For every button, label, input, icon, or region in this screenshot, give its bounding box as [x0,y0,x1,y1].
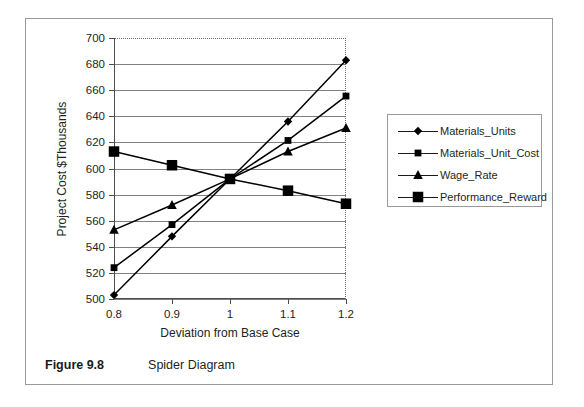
y-tick-label: 520 [86,267,105,279]
x-axis-title: Deviation from Base Case [114,326,346,340]
legend-item-wage-rate[interactable]: Wage_Rate [396,165,498,185]
y-tick-label: 500 [86,293,105,305]
y-tick-label: 580 [86,189,105,201]
legend-item-materials-units[interactable]: Materials_Units [396,121,516,141]
legend-marker [396,187,440,207]
series-plot [114,38,346,299]
legend-marker [396,165,440,185]
x-tick-mark [230,299,231,304]
data-point-marker [285,137,292,144]
legend-item-materials-unit-cost[interactable]: Materials_Unit_Cost [396,143,539,163]
y-tick-label: 600 [86,163,105,175]
x-tick-label: 0.9 [164,308,180,320]
data-point-marker [109,146,120,157]
y-tick-label: 680 [86,58,105,70]
plot-area: 500520540560580600620640660680700 0.80.9… [114,38,346,299]
figure-caption-text: Spider Diagram [148,358,235,372]
y-tick-label: 660 [86,84,105,96]
y-tick-label: 640 [86,110,105,122]
data-point-marker [169,221,176,228]
legend-label: Performance_Reward [440,191,547,203]
chart-legend: Materials_UnitsMaterials_Unit_CostWage_R… [387,114,542,207]
x-tick-label: 1.1 [280,308,296,320]
x-tick-label: 0.8 [106,308,122,320]
legend-label: Materials_Units [440,125,516,137]
data-point-marker [283,185,294,196]
data-point-marker [341,123,351,132]
legend-large-square-icon [410,189,426,205]
series-performance-reward [109,146,352,209]
data-point-marker [111,264,118,271]
data-point-marker [167,160,178,171]
legend-marker [396,121,440,141]
legend-label: Wage_Rate [440,169,498,181]
legend-square-icon [410,145,426,161]
y-tick-mark [109,299,114,300]
x-tick-mark [172,299,173,304]
legend-item-performance-reward[interactable]: Performance_Reward [396,187,547,207]
data-point-marker [109,225,119,234]
legend-label: Materials_Unit_Cost [440,147,539,159]
data-point-marker [343,93,350,100]
legend-triangle-icon [410,167,426,183]
x-tick-mark [346,299,347,304]
y-axis-title: Project Cost $Thousands [55,102,69,237]
y-tick-label: 540 [86,241,105,253]
data-point-marker [225,174,236,185]
data-point-marker [341,198,352,209]
figure-frame: Project Cost $Thousands 5005205405605806… [25,18,553,385]
y-tick-label: 560 [86,215,105,227]
data-point-marker [167,200,177,209]
legend-marker [396,143,440,163]
y-tick-label: 700 [86,32,105,44]
figure-caption: Figure 9.8 Spider Diagram [26,344,554,386]
y-tick-label: 620 [86,136,105,148]
x-tick-label: 1.2 [338,308,354,320]
x-tick-mark [288,299,289,304]
chart-area: Project Cost $Thousands 5005205405605806… [26,19,554,344]
figure-caption-label: Figure 9.8 [45,358,104,372]
legend-diamond-icon [410,123,426,139]
x-tick-label: 1 [227,308,233,320]
